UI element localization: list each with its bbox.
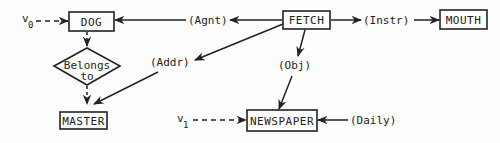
- relation-belongs-to-diamond: Belongs to: [54, 48, 120, 85]
- edge-obj-newspaper: [279, 76, 292, 109]
- concept-master-label: MASTER: [62, 115, 105, 128]
- relation-addr: (Addr): [150, 56, 190, 69]
- edge-fetch-obj: [298, 30, 305, 56]
- relation-daily: (Daily): [350, 114, 396, 127]
- relation-instr: (Instr): [363, 14, 409, 27]
- diamond-label-line2: to: [80, 70, 93, 83]
- concept-fetch-label: FETCH: [289, 14, 325, 27]
- relation-obj: (Obj): [278, 59, 311, 72]
- diagram-svg: DOG FETCH MOUTH MASTER NEWSPAPER Belongs…: [0, 0, 500, 143]
- concept-newspaper-label: NEWSPAPER: [250, 115, 314, 128]
- concept-mouth-label: MOUTH: [446, 14, 482, 27]
- edge-fetch-addr: [195, 24, 283, 60]
- relation-agnt: (Agnt): [188, 14, 228, 27]
- edge-addr-master: [94, 72, 158, 104]
- concept-newspaper: NEWSPAPER: [247, 110, 317, 131]
- svg-text:1: 1: [183, 120, 188, 130]
- conceptual-graph-diagram: DOG FETCH MOUTH MASTER NEWSPAPER Belongs…: [0, 0, 500, 143]
- svg-text:0: 0: [28, 20, 33, 30]
- concept-fetch: FETCH: [283, 11, 330, 29]
- concept-dog: DOG: [69, 12, 114, 31]
- concept-dog-label: DOG: [81, 16, 102, 29]
- variable-v0: v 0: [22, 12, 33, 30]
- concept-mouth: MOUTH: [440, 10, 487, 29]
- variable-v1: v 1: [177, 112, 188, 130]
- concept-master: MASTER: [60, 112, 107, 129]
